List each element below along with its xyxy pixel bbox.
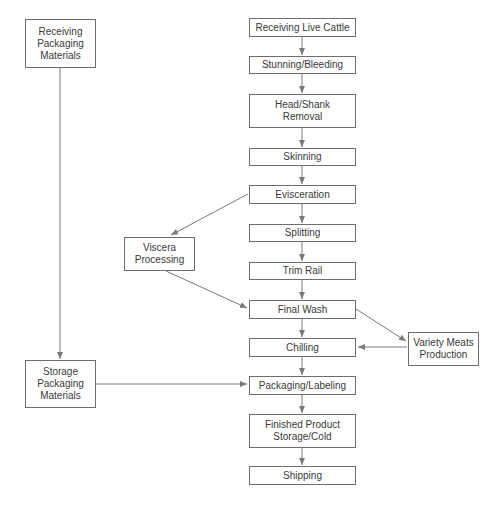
node-skinning: Skinning <box>249 148 356 166</box>
node-label: Receiving Live Cattle <box>256 22 350 34</box>
node-label: Shipping <box>283 470 322 482</box>
node-label: Trim Rail <box>283 265 323 277</box>
node-label: Evisceration <box>275 189 329 201</box>
node-packaging-labeling: Packaging/Labeling <box>249 376 356 395</box>
node-label: Skinning <box>283 151 321 163</box>
node-stunning-bleeding: Stunning/Bleeding <box>249 56 356 74</box>
node-label: Receiving Packaging Materials <box>37 26 84 62</box>
node-final-wash: Final Wash <box>249 300 356 319</box>
node-label: Head/Shank Removal <box>275 99 330 123</box>
node-shipping: Shipping <box>249 466 356 485</box>
node-storage-packaging-materials: Storage Packaging Materials <box>25 360 96 408</box>
node-viscera-processing: Viscera Processing <box>124 237 195 271</box>
node-label: Finished Product Storage/Cold <box>265 419 340 443</box>
arrow-viscera-to-finalwash <box>166 271 247 308</box>
node-label: Storage Packaging Materials <box>37 366 84 402</box>
node-evisceration: Evisceration <box>249 185 356 204</box>
node-label: Splitting <box>285 227 321 239</box>
node-receiving-packaging-materials: Receiving Packaging Materials <box>25 19 96 68</box>
node-head-shank-removal: Head/Shank Removal <box>249 94 356 128</box>
arrow-evisceration-to-viscera <box>171 194 248 235</box>
node-chilling: Chilling <box>249 338 356 357</box>
node-trim-rail: Trim Rail <box>249 262 356 280</box>
node-label: Viscera Processing <box>135 242 184 266</box>
node-label: Final Wash <box>278 304 328 316</box>
node-receiving-live-cattle: Receiving Live Cattle <box>249 18 356 37</box>
node-variety-meats-production: Variety Meats Production <box>408 332 479 366</box>
node-label: Chilling <box>286 342 319 354</box>
beef-processing-flowchart: Receiving Packaging Materials Receiving … <box>0 0 498 506</box>
arrow-finalwash-to-variety <box>356 309 406 341</box>
node-finished-product-storage: Finished Product Storage/Cold <box>249 414 356 448</box>
node-splitting: Splitting <box>249 224 356 242</box>
node-label: Packaging/Labeling <box>259 380 346 392</box>
node-label: Stunning/Bleeding <box>262 59 343 71</box>
node-label: Variety Meats Production <box>413 337 473 361</box>
